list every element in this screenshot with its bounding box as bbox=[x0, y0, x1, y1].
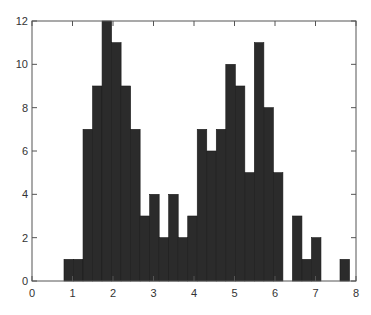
histogram-chart: 012345678 024681012 bbox=[0, 0, 371, 315]
histogram-bar bbox=[207, 151, 217, 281]
histogram-bar bbox=[226, 64, 236, 281]
histogram-bar bbox=[264, 108, 274, 281]
histogram-bar bbox=[112, 43, 122, 281]
histogram-bar bbox=[93, 86, 103, 281]
histogram-bar bbox=[74, 259, 84, 281]
histogram-bar bbox=[197, 129, 207, 281]
x-tick-label: 4 bbox=[191, 287, 197, 299]
histogram-bar bbox=[302, 259, 312, 281]
y-tick-label: 10 bbox=[16, 58, 28, 70]
y-tick-label: 4 bbox=[22, 188, 28, 200]
histogram-bar bbox=[216, 129, 226, 281]
histogram-bar bbox=[140, 216, 150, 281]
x-tick-label: 5 bbox=[231, 287, 237, 299]
histogram-bar bbox=[169, 194, 179, 281]
x-tick-label: 3 bbox=[150, 287, 156, 299]
histogram-bars bbox=[64, 21, 350, 281]
y-tick-label: 2 bbox=[22, 232, 28, 244]
histogram-bar bbox=[292, 216, 302, 281]
x-tick-label: 8 bbox=[353, 287, 359, 299]
histogram-bar bbox=[102, 21, 112, 281]
histogram-bar bbox=[273, 173, 283, 281]
histogram-bar bbox=[188, 216, 198, 281]
histogram-bar bbox=[121, 86, 131, 281]
x-tick-label: 1 bbox=[69, 287, 75, 299]
histogram-bar bbox=[150, 194, 160, 281]
x-tick-label: 2 bbox=[110, 287, 116, 299]
y-tick-label: 0 bbox=[22, 275, 28, 287]
x-tick-label: 7 bbox=[312, 287, 318, 299]
histogram-bar bbox=[235, 86, 245, 281]
histogram-bar bbox=[83, 129, 93, 281]
histogram-bar bbox=[254, 43, 264, 281]
x-tick-label: 0 bbox=[29, 287, 35, 299]
histogram-bar bbox=[311, 238, 321, 281]
histogram-bar bbox=[178, 238, 188, 281]
histogram-bar bbox=[159, 238, 169, 281]
y-tick-label: 6 bbox=[22, 145, 28, 157]
x-tick-label: 6 bbox=[272, 287, 278, 299]
histogram-bar bbox=[340, 259, 350, 281]
y-tick-label: 12 bbox=[16, 15, 28, 27]
histogram-bar bbox=[245, 173, 255, 281]
y-tick-label: 8 bbox=[22, 102, 28, 114]
histogram-bar bbox=[131, 129, 141, 281]
